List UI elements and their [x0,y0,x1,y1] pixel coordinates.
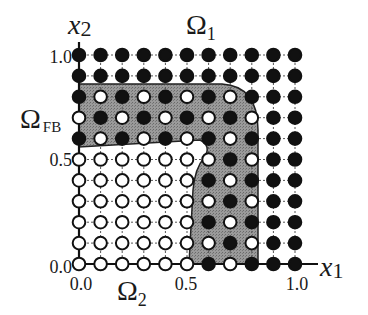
filled-node [159,49,172,62]
open-node [138,132,151,145]
y-axis-label: x2 [67,9,91,41]
omega-fb-label: ΩFB [20,103,61,135]
open-node [202,111,215,124]
filled-node [202,216,215,229]
filled-node [94,70,107,83]
filled-node [267,174,280,187]
open-node [138,195,151,208]
open-node [138,258,151,271]
x-axis-label: x1 [319,251,343,283]
open-node [94,174,107,187]
open-node [94,258,107,271]
open-node [224,91,237,104]
open-node [94,153,107,166]
open-node [159,216,172,229]
filled-node [246,258,259,271]
open-node [224,216,237,229]
y-tick-1.0: 1.0 [50,47,73,67]
filled-node [267,70,280,83]
open-node [159,195,172,208]
filled-node [289,111,302,124]
filled-node [138,111,151,124]
filled-node [289,174,302,187]
filled-node [267,258,280,271]
filled-node [267,132,280,145]
open-node [181,153,194,166]
filled-node [246,174,259,187]
filled-node [202,70,215,83]
filled-node [267,111,280,124]
filled-node [267,153,280,166]
filled-node [116,70,129,83]
filled-node [159,132,172,145]
open-node [73,237,86,250]
open-node [159,111,172,124]
filled-node [246,132,259,145]
filled-node [289,258,302,271]
open-node [116,237,129,250]
open-node [159,153,172,166]
filled-node [289,132,302,145]
open-node [181,132,194,145]
open-node [138,174,151,187]
open-node [94,216,107,229]
filled-node [202,49,215,62]
open-node [181,216,194,229]
filled-node [246,70,259,83]
open-node [94,132,107,145]
open-node [73,258,86,271]
open-node [224,174,237,187]
filled-node [267,49,280,62]
open-node [246,111,259,124]
open-node [181,174,194,187]
open-node [73,111,86,124]
filled-node [202,174,215,187]
filled-node [224,70,237,83]
open-node [246,195,259,208]
filled-node [181,70,194,83]
y-tick-0.5: 0.5 [50,150,73,170]
open-node [116,174,129,187]
open-node [159,174,172,187]
filled-node [73,132,86,145]
filled-node [73,70,86,83]
filled-node [116,49,129,62]
open-node [116,216,129,229]
filled-node [289,49,302,62]
open-node [116,111,129,124]
y-tick-0.0: 0.0 [50,257,73,277]
filled-node [94,49,107,62]
open-node [73,216,86,229]
open-node [138,153,151,166]
filled-node [116,132,129,145]
filled-node [116,91,129,104]
filled-node [181,49,194,62]
filled-node [246,91,259,104]
filled-node [73,49,86,62]
open-node [94,91,107,104]
filled-node [138,49,151,62]
filled-node [289,237,302,250]
filled-node [289,91,302,104]
filled-node [138,70,151,83]
filled-node [289,70,302,83]
omega2-label: Ω2 [117,275,147,310]
open-node [94,195,107,208]
open-node [138,237,151,250]
open-node [202,153,215,166]
open-node [73,174,86,187]
open-node [138,91,151,104]
open-node [138,216,151,229]
open-node [73,153,86,166]
filled-node [246,49,259,62]
open-node [116,258,129,271]
open-node [181,258,194,271]
filled-node [181,111,194,124]
filled-node [224,111,237,124]
filled-node [267,216,280,229]
filled-node [224,49,237,62]
open-node [159,237,172,250]
open-node [116,153,129,166]
domain-diagram: x2 x1 1.0 0.5 0.0 0.0 0.5 1.0 Ω1 Ω2 ΩFB [0,0,368,315]
filled-node [289,153,302,166]
